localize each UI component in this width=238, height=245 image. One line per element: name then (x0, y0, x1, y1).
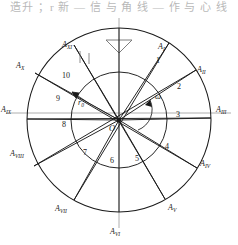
outer-label-A-IX: AIX (1, 106, 11, 114)
inner-number-4: 4 (165, 143, 169, 151)
inner-number-5: 5 (135, 155, 139, 163)
outer-label-A-VII: AVII (55, 205, 67, 213)
figure-root: 造升 ；r 新 — 信 与 角 线 — 作 与 心 线 (0, 0, 238, 245)
outer-label-A-XI: AXI (62, 41, 72, 49)
outer-label-A-IV: AIV (200, 160, 210, 168)
inner-number-7: 7 (83, 149, 87, 157)
origin-label: O (109, 124, 115, 133)
r0-label: r0 (78, 99, 84, 107)
center-point (117, 118, 121, 122)
outer-label-A-III: AIII (216, 106, 226, 114)
cam-diagram-svg (0, 0, 238, 245)
outer-label-A-VIII: AVIII (10, 150, 24, 158)
outer-label-A-X: AX (16, 62, 24, 70)
inner-number-1: 1 (156, 57, 160, 65)
inner-number-2: 2 (177, 83, 181, 91)
outer-label-A-I: AI (158, 43, 165, 51)
inner-number-10: 10 (62, 72, 70, 80)
omega-arrow (138, 100, 152, 130)
omega-label: ω (155, 92, 161, 101)
outer-label-A-V: AV (168, 204, 176, 212)
inner-number-8: 8 (62, 121, 66, 129)
inner-number-9: 9 (56, 95, 60, 103)
outer-label-A-VI: AVI (110, 228, 120, 236)
outer-label-A-II: AII (197, 66, 206, 74)
inner-number-3: 3 (176, 111, 180, 119)
inner-number-6: 6 (110, 157, 114, 165)
